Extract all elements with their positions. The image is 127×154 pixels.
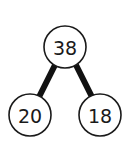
left-part-node: 20	[9, 94, 51, 136]
right-part-label: 18	[88, 105, 112, 127]
whole-node: 38	[44, 26, 86, 68]
edge-whole-to-right-part	[76, 65, 92, 97]
edge-whole-to-left-part	[39, 65, 55, 97]
whole-label: 38	[53, 37, 77, 59]
number-bond-diagram: 38 20 18	[0, 0, 127, 154]
right-part-node: 18	[79, 94, 121, 136]
left-part-label: 20	[18, 105, 42, 127]
